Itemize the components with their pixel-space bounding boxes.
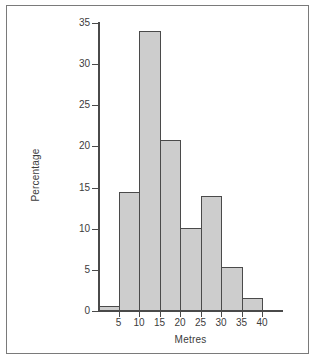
y-axis-tick-label: 5 <box>64 265 90 275</box>
y-axis-title: Percentage <box>30 120 41 230</box>
y-axis-tick-label: 0 <box>64 306 90 316</box>
y-axis-tick-mark <box>92 146 98 147</box>
y-axis-tick-label: 15 <box>64 183 90 193</box>
x-axis-title: Metres <box>98 334 283 345</box>
y-axis-tick-label: 25 <box>64 100 90 110</box>
histogram-plot-area: 05101520253035 510152025303540 Percentag… <box>0 0 317 363</box>
histogram-bar <box>180 228 202 311</box>
histogram-bar <box>139 31 161 311</box>
y-axis-tick-label: 30 <box>64 59 90 69</box>
y-axis-line <box>98 22 100 312</box>
x-axis-line <box>98 310 283 312</box>
y-axis-tick-label: 35 <box>64 18 90 28</box>
histogram-bar <box>201 196 223 311</box>
histogram-bar <box>242 298 264 311</box>
y-axis-tick-mark <box>92 64 98 65</box>
y-axis-tick-mark <box>92 229 98 230</box>
histogram-bar <box>160 140 182 311</box>
y-axis-tick-mark <box>92 188 98 189</box>
y-axis-tick-mark <box>92 105 98 106</box>
y-axis-tick-mark <box>92 23 98 24</box>
y-axis-tick-label: 10 <box>64 224 90 234</box>
histogram-bar <box>119 192 141 311</box>
y-axis-tick-mark <box>92 270 98 271</box>
y-axis-tick-label: 20 <box>64 141 90 151</box>
x-axis-tick-label: 40 <box>250 317 274 329</box>
histogram-bar <box>221 267 243 311</box>
y-axis-tick-mark <box>92 311 98 312</box>
